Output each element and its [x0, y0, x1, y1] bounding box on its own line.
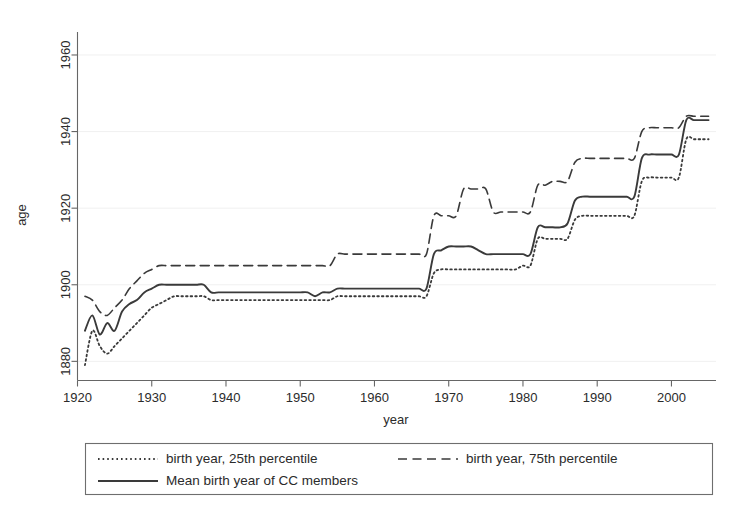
y-axis-title: age	[14, 204, 29, 226]
x-tick-label: 1990	[583, 390, 612, 405]
y-tick-label: 1880	[58, 347, 73, 376]
x-tick-label: 1940	[212, 390, 241, 405]
legend-label-dashed: birth year, 75th percentile	[466, 451, 618, 466]
chart-background	[0, 0, 729, 514]
chart-figure: 18801900192019401960 1920193019401950196…	[0, 0, 729, 514]
y-tick-label: 1940	[58, 117, 73, 146]
x-tick-label: 1920	[63, 390, 92, 405]
y-tick-label: 1960	[58, 41, 73, 70]
legend-label-solid: Mean birth year of CC members	[166, 473, 358, 488]
chart-legend: birth year, 25th percentilebirth year, 7…	[86, 444, 713, 495]
y-tick-label: 1920	[58, 194, 73, 223]
x-tick-label: 1970	[434, 390, 463, 405]
line-chart: 18801900192019401960 1920193019401950196…	[0, 0, 729, 514]
legend-label-dotted: birth year, 25th percentile	[166, 451, 318, 466]
y-tick-label: 1900	[58, 270, 73, 299]
x-tick-label: 1980	[509, 390, 538, 405]
x-tick-label: 1930	[137, 390, 166, 405]
x-tick-label: 2000	[657, 390, 686, 405]
x-tick-label: 1950	[286, 390, 315, 405]
x-axis-title: year	[383, 412, 409, 427]
x-tick-label: 1960	[360, 390, 389, 405]
